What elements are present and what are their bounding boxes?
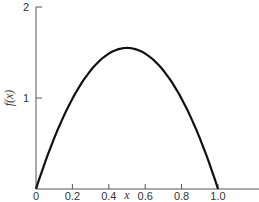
x-tick-label: 0.4	[101, 190, 116, 202]
y-axis-label: f(x)	[2, 90, 16, 107]
y-tick-label-2: 2	[23, 1, 29, 13]
x-tick-label: 0.8	[174, 190, 189, 202]
y-tick-label-1: 1	[23, 92, 29, 104]
function-plot: 2 1 00.20.40.60.81.0 f(x) x	[0, 0, 259, 202]
x-axis-label: x	[123, 188, 130, 202]
x-tick-label: 0.2	[65, 190, 80, 202]
curve-line	[36, 48, 218, 189]
x-tick-label: 0	[33, 190, 39, 202]
x-tick-label: 1.0	[210, 190, 225, 202]
x-tick-label: 0.6	[138, 190, 153, 202]
